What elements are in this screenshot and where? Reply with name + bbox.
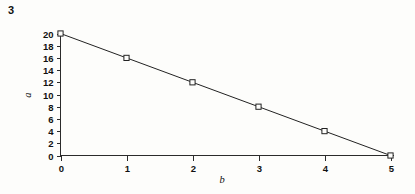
line-chart: 02468101214161820 012345 a b xyxy=(0,0,415,194)
figure-container: 3 02468101214161820 012345 a b xyxy=(0,0,415,194)
data-point-marker xyxy=(388,153,393,158)
x-tick-label: 1 xyxy=(125,163,131,174)
y-tick-label: 0 xyxy=(48,151,53,162)
x-tick-label: 3 xyxy=(257,163,262,174)
x-tick-label: 0 xyxy=(59,163,64,174)
y-tick-label: 18 xyxy=(43,41,54,52)
data-point-marker xyxy=(256,104,261,109)
y-tick-label: 2 xyxy=(48,138,53,149)
y-axis-ticks xyxy=(57,35,61,157)
y-tick-label: 20 xyxy=(43,29,54,40)
data-series-line xyxy=(61,34,391,156)
x-axis-ticks xyxy=(62,156,392,161)
data-point-marker xyxy=(124,55,129,60)
y-tick-label: 16 xyxy=(43,53,54,64)
y-axis-tick-labels: 02468101214161820 xyxy=(43,29,54,162)
data-point-marker xyxy=(58,31,63,36)
x-tick-label: 4 xyxy=(323,163,329,174)
y-tick-label: 14 xyxy=(43,65,54,76)
y-tick-label: 8 xyxy=(48,102,53,113)
y-tick-label: 10 xyxy=(43,90,54,101)
y-axis-title: a xyxy=(22,92,33,97)
x-axis-title: b xyxy=(219,174,224,185)
x-axis-tick-labels: 012345 xyxy=(59,163,395,174)
y-tick-label: 12 xyxy=(43,77,54,88)
y-tick-label: 6 xyxy=(48,114,53,125)
data-point-marker xyxy=(190,80,195,85)
y-tick-label: 4 xyxy=(48,126,54,137)
x-tick-label: 2 xyxy=(191,163,196,174)
data-point-marker xyxy=(322,129,327,134)
x-tick-label: 5 xyxy=(389,163,395,174)
